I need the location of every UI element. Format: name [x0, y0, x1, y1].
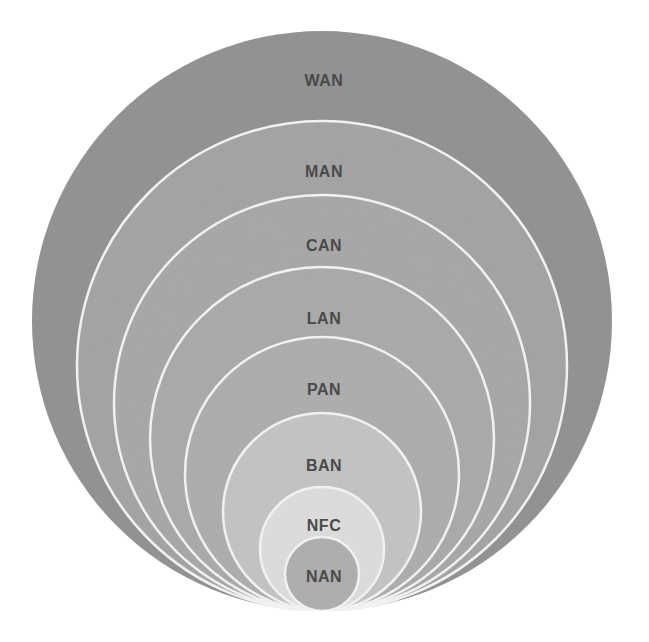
label-lan: LAN — [307, 310, 341, 327]
label-man: MAN — [305, 163, 343, 180]
label-nfc: NFC — [307, 517, 341, 534]
label-pan: PAN — [307, 381, 341, 398]
label-nan: NAN — [306, 568, 342, 585]
label-can: CAN — [306, 237, 342, 254]
label-wan: WAN — [305, 72, 344, 89]
network-scope-diagram: WANMANCANLANPANBANNFCNAN — [0, 0, 649, 642]
label-ban: BAN — [306, 457, 342, 474]
